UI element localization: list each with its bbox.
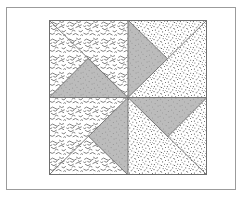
figure-root: Pinwheel Quilt Block Square block divide… [0,0,243,200]
quadrant-bottom-right [128,98,207,176]
quilt-block [49,20,207,175]
quadrant-top-right [128,20,207,98]
quadrant-bottom-left [49,98,128,176]
quadrant-top-left [49,20,128,98]
